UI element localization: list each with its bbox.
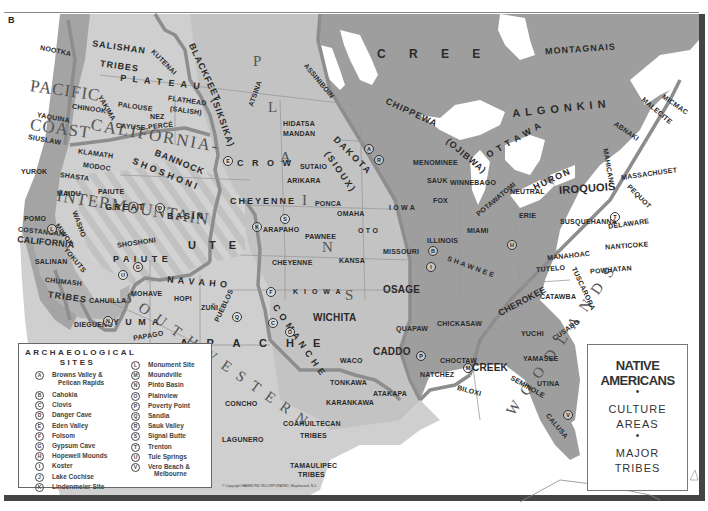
legend-title-line2: SITES <box>25 358 130 368</box>
site-marker-a: A <box>364 144 374 154</box>
tribe-crow: C R O W <box>237 159 294 168</box>
legend-site-circle: B <box>35 391 44 400</box>
tribe-maidu: MAIDU <box>57 190 81 197</box>
tribe-utina: UTINA <box>537 380 559 387</box>
tribe-menominee: MENOMINEE <box>413 159 458 166</box>
tribe-salinan: SALINAN <box>35 258 68 265</box>
title-major: MAJOR <box>588 446 687 461</box>
legend-column-left: ABrowns Valley &Pelican Rapids BCahokia … <box>35 371 107 493</box>
legend-site-name: Lindenmeier Site <box>52 483 104 491</box>
tribe-concho: CONCHO <box>225 400 257 407</box>
site-marker-f: F <box>266 287 276 297</box>
legend-site-circle: C <box>35 401 44 410</box>
legend-site-name: Signal Butte <box>148 432 186 440</box>
legend-site-name: Vero Beach &Melbourne <box>148 463 190 478</box>
legend-site-name: Browns Valley &Pelican Rapids <box>52 371 104 386</box>
tribe-cahuilla: CAHUILLA <box>89 297 126 304</box>
legend-site-circle: M <box>131 371 140 380</box>
tribe-kansa: KANSA <box>339 257 365 264</box>
legend-site-circle: G <box>35 442 44 451</box>
tribe-great: GREAT <box>105 203 146 212</box>
legend-site-name: Plainview <box>148 392 178 400</box>
legend-site-circle: V <box>131 463 140 472</box>
legend-title-line1: ARCHAEOLOGICAL <box>25 348 130 358</box>
site-marker-l: L <box>47 224 57 234</box>
legend-site-name: Folsom <box>52 432 75 440</box>
legend-site-name: Poverty Point <box>148 402 190 410</box>
site-marker-o: O <box>285 327 295 337</box>
tribe-sauk: SAUK <box>427 177 448 184</box>
tribe-sutaio: SUTAIO <box>300 163 327 170</box>
legend-site-name: Monument Site <box>148 361 195 369</box>
legend-item-h: HHopewell Mounds <box>35 452 107 462</box>
legend-item-g: GGypsum Cave <box>35 442 107 452</box>
tribe-basin: BASIN <box>167 212 205 221</box>
legend-site-circle: H <box>35 452 44 461</box>
legend-item-s: SSignal Butte <box>131 432 195 442</box>
legend-site-circle: J <box>35 473 44 482</box>
legend-site-name: Gypsum Cave <box>52 442 95 450</box>
tribe-cheyenne-1: CHEYENNE <box>230 197 296 206</box>
legend-item-b: BCahokia <box>35 391 107 401</box>
tribe-iowa: I O W A <box>389 204 415 211</box>
site-marker-p: P <box>416 351 426 361</box>
tribe-waco: WACO <box>340 357 363 364</box>
tribe-hidatsa: HIDATSA <box>283 120 315 127</box>
tribe-winnebago: WINNEBAGO <box>450 179 496 186</box>
legend-site-name-1: Vero Beach & <box>148 463 190 470</box>
tribe-paiute-1: PAIUTE <box>98 188 124 195</box>
title-native: NATIVE <box>588 358 687 373</box>
legend-site-circle: P <box>131 402 140 411</box>
map-canvas: B PACIFIC COAST CALIFORNIA- INTERMOUNTAI… <box>0 0 708 511</box>
tribe-erie: ERIE <box>519 212 536 219</box>
legend-site-circle: A <box>35 371 44 380</box>
legend-site-circle: E <box>35 422 44 431</box>
tribe-tribes-coahuiltecan: TRIBES <box>300 432 327 439</box>
tribe-osage: OSAGE <box>383 285 420 295</box>
tribe-omaha: OMAHA <box>337 210 364 217</box>
tribe-atakapa: ATAKAPA <box>373 390 407 397</box>
tribe-tonkawa: TONKAWA <box>330 379 367 386</box>
site-marker-u: U <box>118 270 128 280</box>
legend-item-p: PPoverty Point <box>131 402 195 412</box>
tribe-cree: C R E E <box>377 48 490 60</box>
site-marker-d: D <box>155 203 165 213</box>
legend-site-name: Cahokia <box>52 391 77 399</box>
legend-site-name: Moundville <box>148 371 182 379</box>
tribe-yuchi: YUCHI <box>521 330 544 337</box>
title-culture: CULTURE <box>588 402 687 417</box>
tribe-arapaho: ARAPAHO <box>263 226 299 233</box>
legend-item-e: EEden Valley <box>35 422 107 432</box>
legend-item-f: FFolsom <box>35 432 107 442</box>
tribe-coahuiltecan: COAHUILTECAN <box>283 420 341 427</box>
site-marker-k: K <box>252 222 262 232</box>
tribe-miami: MIAMI <box>467 227 489 234</box>
legend-site-circle: S <box>131 432 140 441</box>
tribe-ute: U T E <box>188 240 241 251</box>
tribe-tamaulipec: TAMAULIPEC <box>290 462 337 469</box>
legend-item-t: TTrenton <box>131 443 195 453</box>
legend-item-a: ABrowns Valley &Pelican Rapids <box>35 371 107 391</box>
legend-item-d: DDanger Cave <box>35 411 107 421</box>
legend-site-circle: Q <box>131 412 140 421</box>
map-title-box: NATIVE AMERICANS • CULTURE AREAS • MAJOR… <box>587 344 688 491</box>
legend-site-name: Lake Cochise <box>52 473 94 481</box>
tribe-zuni: ZUÑI <box>201 304 218 311</box>
site-marker-q: Q <box>232 312 242 322</box>
tribe-cheyenne-2: CHEYENNE <box>272 259 313 266</box>
site-marker-g: G <box>133 262 143 272</box>
legend-site-name-2: Pelican Rapids <box>52 379 104 386</box>
site-marker-e: E <box>223 156 233 166</box>
tribe-tribes-tamaulipec: TRIBES <box>298 471 325 478</box>
legend-item-k: KLindenmeier Site <box>35 483 107 493</box>
legend-item-o: OPlainview <box>131 392 195 402</box>
site-marker-v: V <box>563 410 573 420</box>
legend-item-u: UTule Springs <box>131 453 195 463</box>
legend-site-name-1: Browns Valley & <box>52 371 103 378</box>
legend-site-name: Clovis <box>52 401 72 409</box>
tribe-pomo: POMO <box>24 215 46 222</box>
legend-title: ARCHAEOLOGICAL SITES <box>25 348 130 368</box>
legend-site-circle: D <box>35 411 44 420</box>
tribe-creek: CREEK <box>472 363 508 373</box>
tribe-missouri: MISSOURI <box>383 248 419 255</box>
